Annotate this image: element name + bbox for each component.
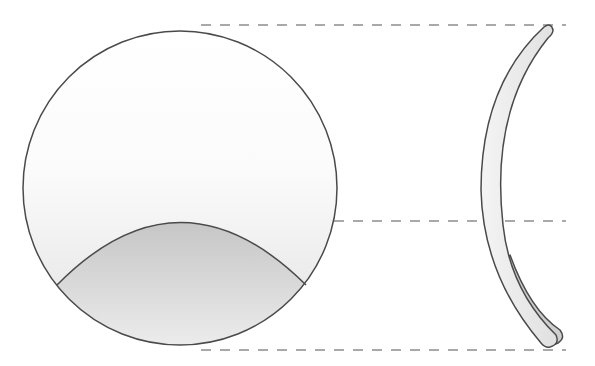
side-profile-lens xyxy=(481,25,563,347)
lens-diagram xyxy=(0,0,595,366)
profile-lens-body xyxy=(481,25,557,347)
front-view-lens xyxy=(20,31,340,366)
